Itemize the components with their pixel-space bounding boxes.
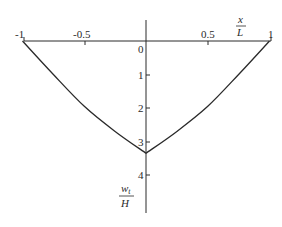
- y-tick-label: 1: [138, 69, 144, 81]
- chart: -1 -0.5 0.5 1 x L 0 1 2 3 4 wt H: [0, 0, 282, 227]
- x-axis-label-denominator: L: [236, 26, 243, 38]
- y-tick-label: 3: [138, 136, 144, 148]
- x-tick-label: -0.5: [73, 28, 91, 40]
- y-tick-label: 4: [138, 169, 144, 181]
- x-axis-label-numerator: x: [237, 13, 243, 25]
- y-tick-label: 2: [138, 102, 144, 114]
- y-axis-label-denominator: H: [120, 197, 130, 209]
- x-tick-label: -1: [15, 28, 24, 40]
- y-tick-label: 0: [138, 43, 144, 55]
- y-ticks: [146, 75, 150, 175]
- x-tick-label: 0.5: [201, 28, 215, 40]
- y-axis-label-numerator: wt: [121, 182, 131, 196]
- x-tick-label: 1: [268, 28, 274, 40]
